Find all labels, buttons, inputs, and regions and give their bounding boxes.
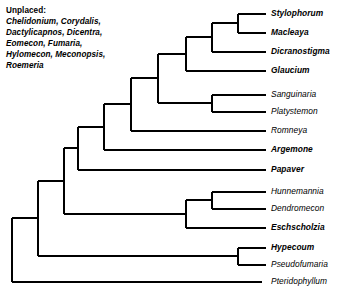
tip-label-macleaya: Macleaya: [271, 28, 309, 37]
tip-label-romneya: Romneya: [271, 126, 307, 135]
tip-label-stylophorum: Stylophorum: [271, 9, 323, 18]
tip-label-eschscholzia: Eschscholzia: [271, 223, 325, 232]
unplaced-taxa-line-3: Eomecon, Fumaria,: [6, 39, 158, 50]
tip-label-platystemon: Platystemon: [271, 107, 318, 116]
tip-label-sanguinaria: Sanguinaria: [271, 90, 316, 99]
unplaced-taxa-note: Unplaced: Chelidonium, Corydalis, Dactyl…: [6, 6, 158, 71]
tip-label-pseudofumaria: Pseudofumaria: [271, 260, 328, 269]
tip-label-papaver: Papaver: [271, 165, 304, 174]
unplaced-taxa-line-2: Dactylicapnos, Dicentra,: [6, 28, 158, 39]
tip-label-glaucium: Glaucium: [271, 66, 310, 75]
tip-label-dendromecon: Dendromecon: [271, 204, 324, 213]
tip-label-hunnemannia: Hunnemannia: [271, 187, 324, 196]
tip-label-argemone: Argemone: [271, 145, 313, 154]
unplaced-taxa-line-5: Roemeria: [6, 61, 158, 72]
unplaced-heading: Unplaced:: [6, 6, 158, 17]
tip-label-pteridophyllum: Pteridophyllum: [271, 277, 327, 286]
unplaced-taxa-line-4: Hylomecon, Meconopsis,: [6, 50, 158, 61]
tip-label-dicranostigma: Dicranostigma: [271, 47, 330, 56]
figure-canvas: Unplaced: Chelidonium, Corydalis, Dactyl…: [0, 0, 348, 298]
tip-label-hypecoum: Hypecoum: [271, 243, 314, 252]
unplaced-taxa-line-1: Chelidonium, Corydalis,: [6, 17, 158, 28]
